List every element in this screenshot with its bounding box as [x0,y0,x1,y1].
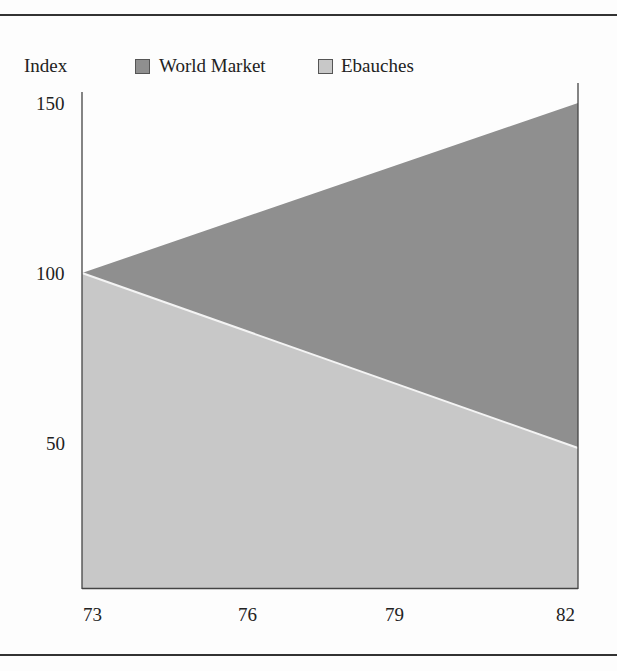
chart-plot [0,0,617,671]
y-tick-50: 50 [46,434,65,453]
x-tick-73: 73 [83,605,102,624]
x-tick-79: 79 [385,605,404,624]
y-tick-100: 100 [36,264,65,283]
x-tick-82: 82 [556,605,575,624]
x-tick-76: 76 [238,605,257,624]
y-tick-150: 150 [36,94,65,113]
